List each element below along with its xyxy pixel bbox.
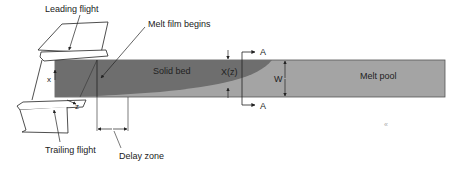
width-label: W [274, 74, 283, 84]
melt-pool-label: Melt pool [360, 71, 397, 81]
stray-mark: « [384, 121, 388, 128]
x-axis-label: x [47, 75, 51, 84]
melt-film-begins-label: Melt film begins [148, 19, 211, 29]
section-a-top-label: A [260, 47, 266, 57]
section-a-bottom-label: A [260, 101, 266, 111]
x-of-z-label: X(z) [221, 67, 238, 77]
melting-diagram: x z Leading flight Melt film begins Trai… [0, 0, 462, 170]
solid-bed-label: Solid bed [153, 66, 191, 76]
z-axis-label: z [75, 102, 79, 111]
delay-zone-label: Delay zone [119, 151, 164, 161]
trailing-flight-label: Trailing flight [45, 145, 96, 155]
leading-flight [38, 22, 108, 61]
leading-flight-label: Leading flight [45, 4, 99, 14]
